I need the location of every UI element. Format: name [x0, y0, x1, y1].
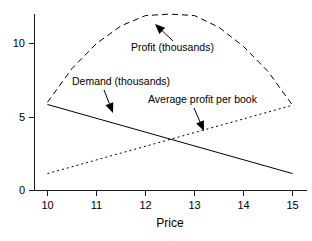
y-tick-label-0: 0: [19, 184, 25, 196]
x-tick-label-10: 10: [41, 199, 53, 211]
x-tick-label-12: 12: [139, 199, 151, 211]
chart-canvas: 10 5 0 10 11 12 13 14 15 Price: [0, 0, 312, 241]
x-tick-label-14: 14: [237, 199, 249, 211]
x-tick-label-11: 11: [91, 199, 102, 211]
demand-annotation-label: Demand (thousands): [72, 75, 170, 87]
x-tick-label-13: 13: [188, 199, 200, 211]
profit-annotation-label: Profit (thousands): [131, 41, 214, 53]
average-profit-annotation-label: Average profit per book: [148, 93, 258, 105]
y-tick-label-5: 5: [19, 111, 25, 123]
x-tick-label-15: 15: [286, 199, 298, 211]
chart-svg: 10 5 0 10 11 12 13 14 15 Price: [0, 0, 312, 241]
x-axis-title: Price: [156, 216, 184, 230]
y-tick-label-10: 10: [13, 37, 25, 49]
